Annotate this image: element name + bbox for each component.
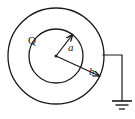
outer-radius-label-b: b: [89, 65, 95, 77]
inner-radius-label-a: a: [68, 41, 74, 53]
charge-label-q: Q: [28, 34, 36, 46]
ground-wire: [103, 55, 122, 101]
physics-diagram-figure: Q a b: [0, 0, 135, 119]
shell-diagram-canvas: Q a b: [0, 0, 135, 119]
